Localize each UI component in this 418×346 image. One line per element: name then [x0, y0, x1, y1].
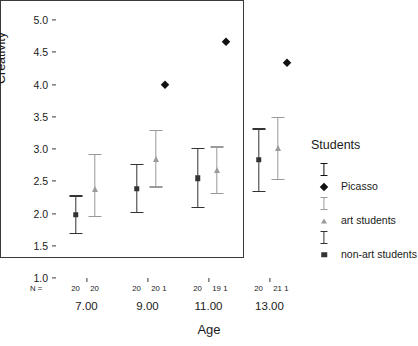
n-value: 1	[162, 284, 166, 293]
series-marker	[282, 59, 291, 68]
x-axis-tick-mark	[208, 278, 209, 282]
data-point	[269, 117, 287, 180]
error-bar-cap-lower	[210, 193, 223, 194]
data-point	[86, 154, 104, 218]
y-axis-tick-label: 3.0	[33, 143, 48, 155]
legend-item-label: non-art students	[341, 248, 417, 260]
series-marker	[153, 156, 159, 162]
series-marker	[275, 145, 281, 151]
error-bar-cap-lower	[191, 207, 204, 208]
data-point	[128, 164, 146, 214]
legend-errorbar-glyph	[311, 161, 415, 178]
legend-errorbar-glyph	[311, 229, 415, 246]
x-axis-title: Age	[0, 322, 418, 337]
series-marker	[134, 186, 140, 192]
legend-title: Students	[311, 138, 415, 152]
error-bar-cap-upper	[210, 146, 223, 147]
error-bar-cap-upper	[69, 195, 82, 196]
data-point	[147, 130, 165, 188]
x-axis-tick-mark	[86, 278, 87, 282]
error-bar-cap-upper	[130, 164, 143, 165]
diamond-icon	[317, 178, 331, 195]
legend-item[interactable]: Picasso	[311, 178, 415, 195]
error-bar-chart: 1.01.52.02.53.03.54.04.55.0 Creativity N…	[0, 0, 418, 346]
series-marker	[214, 167, 220, 173]
error-bar-cap-upper	[191, 148, 204, 149]
data-point	[278, 54, 296, 72]
error-bar-cap-lower	[69, 233, 82, 234]
n-value: 20	[193, 284, 202, 293]
series-marker	[195, 175, 201, 181]
legend: Students Picassoart studentsnon-art stud…	[311, 138, 415, 263]
series-marker	[92, 186, 98, 192]
data-point	[67, 195, 85, 234]
n-value: 20	[90, 284, 99, 293]
data-point	[250, 128, 268, 192]
data-point	[208, 146, 226, 194]
n-value: 20	[254, 284, 263, 293]
series-marker	[160, 80, 169, 89]
y-axis-tick-label: 3.5	[33, 111, 48, 123]
error-bar-cap-lower	[252, 191, 265, 192]
n-value: 20	[132, 284, 141, 293]
x-axis-group-label: 13.00	[255, 300, 284, 312]
y-axis-tick-label: 2.0	[33, 208, 48, 220]
legend-item-label: Picasso	[341, 180, 378, 192]
n-value: 20	[71, 284, 80, 293]
error-bar-cap-lower	[271, 179, 284, 180]
legend-errorbar-glyph	[311, 195, 415, 212]
x-axis-group-label: 7.00	[75, 300, 97, 312]
triangle-icon	[317, 212, 331, 229]
x-axis-group-label: 9.00	[136, 300, 158, 312]
y-axis-tick-label: 4.5	[33, 46, 48, 58]
error-bar-cap-upper	[252, 128, 265, 129]
series-marker	[73, 212, 79, 218]
data-point	[189, 148, 207, 209]
y-axis-tick-label: 1.0	[33, 272, 48, 284]
error-bar-cap-upper	[149, 130, 162, 131]
y-axis-tick-label: 5.0	[33, 14, 48, 26]
error-bar-cap-upper	[88, 154, 101, 155]
legend-item[interactable]: non-art students	[311, 246, 415, 263]
legend-entries: Picassoart studentsnon-art students	[311, 161, 415, 263]
y-axis-title: Creativity	[0, 0, 8, 118]
series-marker	[221, 37, 230, 46]
n-value: 20	[151, 284, 160, 293]
n-row-label: N =	[30, 284, 42, 293]
data-point	[156, 76, 174, 94]
square-icon	[317, 246, 331, 263]
y-axis-tick-label: 4.0	[33, 79, 48, 91]
data-point	[217, 33, 235, 51]
x-axis-group-label: 11.00	[195, 300, 223, 312]
y-axis-tick-label: 2.5	[33, 175, 48, 187]
legend-item-label: art students	[341, 214, 396, 226]
n-value: 21	[273, 284, 282, 293]
n-value: 19	[212, 284, 221, 293]
legend-item[interactable]: art students	[311, 212, 415, 229]
x-axis-tick-mark	[147, 278, 148, 282]
error-bar-cap-lower	[149, 186, 162, 187]
n-value: 1	[284, 284, 288, 293]
n-value: 1	[223, 284, 227, 293]
y-axis-tick-label: 1.5	[33, 240, 48, 252]
error-bar-cap-lower	[130, 212, 143, 213]
series-marker	[256, 157, 262, 163]
error-bar-cap-upper	[271, 117, 284, 118]
plot-area	[56, 20, 300, 278]
error-bar-cap-lower	[88, 216, 101, 217]
x-axis-tick-mark	[269, 278, 270, 282]
